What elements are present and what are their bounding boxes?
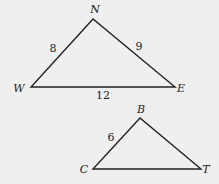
vertex-label-c: C <box>80 163 89 176</box>
side-length-nw: 8 <box>50 42 57 55</box>
vertex-label-e: E <box>176 82 185 95</box>
vertex-label-t: T <box>202 163 211 176</box>
triangle-bct: B C T 6 <box>80 103 212 176</box>
side-length-we: 12 <box>96 89 110 102</box>
similar-triangles-diagram: N W E 8 9 12 B C T 6 <box>0 0 219 184</box>
vertex-label-n: N <box>89 3 100 16</box>
side-length-ne: 9 <box>136 40 143 53</box>
vertex-label-w: W <box>13 82 26 95</box>
triangle-nwe: N W E 8 9 12 <box>13 3 185 102</box>
vertex-label-b: B <box>136 103 145 116</box>
side-length-bc: 6 <box>108 131 115 144</box>
